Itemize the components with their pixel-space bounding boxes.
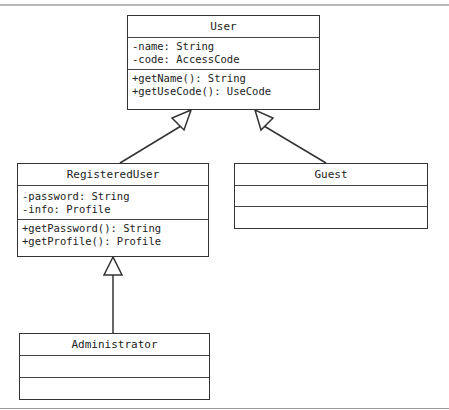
methods-section (20, 378, 209, 399)
attributes-section (20, 356, 209, 378)
class-user[interactable]: User -name: String -code: AccessCode +ge… (127, 15, 320, 110)
attributes-section (235, 186, 427, 207)
attribute: -password: String (22, 190, 204, 203)
attribute: -info: Profile (22, 203, 204, 216)
generalization-line-registereduser-user (120, 126, 181, 163)
method: +getUseCode(): UseCode (132, 85, 315, 98)
class-name: RegisteredUser (18, 164, 208, 186)
methods-section: +getPassword(): String +getProfile(): Pr… (18, 220, 208, 249)
method: +getName(): String (132, 72, 315, 85)
method: +getPassword(): String (22, 222, 204, 235)
class-administrator[interactable]: Administrator (19, 333, 210, 400)
class-name: Guest (235, 164, 427, 186)
attribute: -code: AccessCode (132, 53, 315, 66)
class-name: Administrator (20, 334, 209, 356)
bottom-border-line (0, 408, 449, 409)
attributes-section: -password: String -info: Profile (18, 186, 208, 220)
attribute: -name: String (132, 40, 315, 53)
class-registereduser[interactable]: RegisteredUser -password: String -info: … (17, 163, 209, 257)
attributes-section: -name: String -code: AccessCode (128, 38, 319, 70)
methods-section (235, 207, 427, 228)
methods-section: +getName(): String +getUseCode(): UseCod… (128, 70, 319, 99)
class-guest[interactable]: Guest (234, 163, 428, 229)
hollow-triangle-arrow-icon (255, 110, 273, 130)
method: +getProfile(): Profile (22, 235, 204, 248)
hollow-triangle-arrow-icon (104, 257, 122, 275)
hollow-triangle-arrow-icon (172, 110, 191, 130)
generalization-line-guest-user (264, 126, 326, 163)
class-name: User (128, 16, 319, 38)
